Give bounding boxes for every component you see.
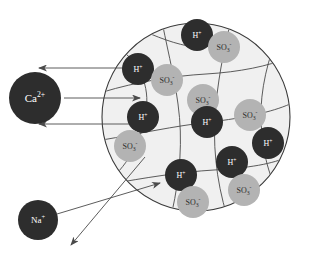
ion-so3b: SO3- <box>151 64 183 96</box>
ion-h6: H+ <box>216 146 248 178</box>
ion-h2: H+ <box>122 53 154 85</box>
ion-label: SO3- <box>196 94 211 106</box>
flow-arrow-out <box>71 157 145 245</box>
ion-so3e: SO3- <box>114 130 146 162</box>
external-ions: Ca2+Na+ <box>9 72 61 240</box>
ion-label: SO3- <box>186 196 201 208</box>
ion-so3d: SO3- <box>234 99 266 131</box>
ion-label: SO3- <box>123 140 138 152</box>
ion-ca: Ca2+ <box>9 72 61 124</box>
ion-label: SO3- <box>160 74 175 86</box>
ion-label: SO3- <box>243 109 258 121</box>
ion-label: SO3- <box>237 184 252 196</box>
ion-h3: H+ <box>127 101 159 133</box>
flow-arrow-in <box>57 183 160 214</box>
diagram-canvas: H+SO3-H+SO3-SO3-SO3-H+H+H+SO3-H+H+SO3-SO… <box>0 0 311 259</box>
ion-so3f: SO3- <box>228 174 260 206</box>
ion-exchange-diagram: H+SO3-H+SO3-SO3-SO3-H+H+H+SO3-H+H+SO3-SO… <box>0 0 311 259</box>
ion-so3g: SO3- <box>177 186 209 218</box>
ion-h5: H+ <box>252 127 284 159</box>
ion-na: Na+ <box>18 200 58 240</box>
ion-so3a: SO3- <box>208 31 240 63</box>
ion-label: SO3- <box>217 41 232 53</box>
ion-h4: H+ <box>191 106 223 138</box>
